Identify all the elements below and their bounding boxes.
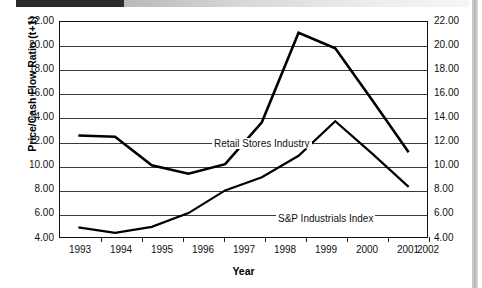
y-tick-label-left-8: 8.00 — [8, 184, 54, 194]
series-annotation-snp: S&P Industrials Index — [276, 213, 375, 224]
x-tick-label-1996: 1996 — [183, 245, 223, 255]
x-tick-label-2000: 2000 — [347, 245, 387, 255]
x-tick-4 — [224, 237, 225, 242]
x-tick-7 — [347, 237, 348, 242]
x-tick-label-1995: 1995 — [142, 245, 182, 255]
y-tick-label-left-4: 4.00 — [8, 233, 54, 243]
y-tick-label-left-10: 10.00 — [8, 160, 54, 170]
y-tick-label-left-20: 20.00 — [8, 40, 54, 50]
x-tick-3 — [183, 237, 184, 242]
x-axis-title: Year — [59, 265, 428, 277]
y-tick-label-left-6: 6.00 — [8, 208, 54, 218]
series-annotation-retail: Retail Stores Industry — [212, 138, 312, 149]
retail-stores-industry-line — [78, 33, 408, 174]
y-tick-label-left-22: 22.00 — [8, 16, 54, 26]
x-tick-6 — [306, 237, 307, 242]
page-edge-rail — [472, 0, 478, 288]
x-tick-8 — [388, 237, 389, 242]
x-tick-label-2002: 2002 — [408, 245, 448, 255]
y-tick-label-left-14: 14.00 — [8, 112, 54, 122]
y-tick-label-left-16: 16.00 — [8, 88, 54, 98]
x-tick-label-1997: 1997 — [224, 245, 264, 255]
header-rule — [0, 0, 482, 8]
series-canvas — [60, 22, 427, 237]
chart-figure: Price/Cash Flow Ratio (t+1) 22.00 20.00 … — [0, 0, 470, 288]
x-tick-2 — [142, 237, 143, 242]
x-tick-label-1998: 1998 — [265, 245, 305, 255]
x-tick-label-1994: 1994 — [101, 245, 141, 255]
x-tick-9 — [429, 237, 430, 242]
y-tick-label-left-12: 12.00 — [8, 136, 54, 146]
header-rule-gradient-segment — [124, 0, 469, 7]
x-tick-label-1999: 1999 — [306, 245, 346, 255]
x-tick-label-1993: 1993 — [60, 245, 100, 255]
y-tick-label-left-18: 18.00 — [8, 64, 54, 74]
plot-area: Retail Stores Industry S&P Industrials I… — [59, 21, 428, 238]
x-tick-5 — [265, 237, 266, 242]
x-tick-1 — [101, 237, 102, 242]
